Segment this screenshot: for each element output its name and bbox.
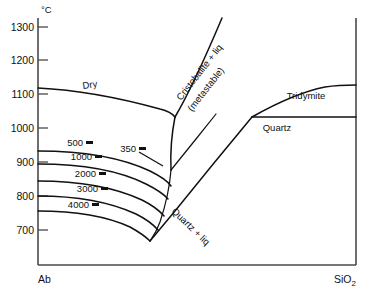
quartz-liq-label: Quartz + liq (170, 206, 213, 248)
phase-diagram-figure: 1300 1200 1100 1000 900 800 700 °C Ab Si… (0, 0, 381, 295)
dry-liquidus-curve (38, 88, 175, 117)
y-axis-tick-labels: 1300 1200 1100 1000 900 800 700 (11, 21, 35, 236)
y-tick-label-1200: 1200 (11, 54, 35, 66)
quartz-label: Quartz (263, 122, 292, 133)
x-axis-right-endmember-label: SiO2 (334, 273, 357, 288)
pressure-marker-1000 (95, 155, 102, 158)
y-tick-label-1300: 1300 (11, 21, 35, 33)
pressure-label-500: 500 (67, 137, 83, 148)
y-tick-label-1100: 1100 (11, 88, 34, 100)
pressure-label-3000: 3000 (77, 183, 98, 194)
quartz-liq-cotectic-boundary (150, 117, 252, 241)
minima-locus-curve (150, 170, 171, 241)
pressure-labels-group: 500 1000 2000 3000 4000 (67, 137, 98, 210)
pressure-label-350: 350 (120, 143, 136, 154)
pressure-label-1000: 1000 (71, 151, 92, 162)
pressure-marker-4000 (92, 203, 99, 206)
secondary-cotectic-line (171, 114, 216, 170)
y-axis-ticks (38, 27, 48, 230)
liquidus-curve-500 (38, 151, 171, 186)
pressure-label-4000: 4000 (68, 199, 89, 210)
dry-cotectic-curve (171, 117, 175, 170)
pressure-marker-350 (139, 147, 146, 150)
pressure-label-2000: 2000 (75, 168, 96, 179)
y-tick-label-1000: 1000 (11, 122, 35, 134)
pressure-marker-3000 (101, 187, 108, 190)
phase-diagram-svg: 1300 1200 1100 1000 900 800 700 °C Ab Si… (0, 0, 381, 295)
x-axis-left-endmember-label: Ab (38, 273, 51, 285)
pressure-marker-500 (86, 141, 93, 144)
pressure-350-leader-line (139, 152, 163, 166)
pressure-marker-2000 (99, 172, 106, 175)
sio2-subscript: 2 (352, 279, 357, 288)
sio2-base: SiO (334, 273, 352, 285)
liquidus-curve-4000 (38, 211, 150, 241)
tridymite-label: Tridymite (287, 90, 326, 101)
y-tick-label-800: 800 (16, 190, 34, 202)
y-axis-unit-label: °C (41, 4, 52, 15)
y-tick-label-700: 700 (16, 224, 34, 236)
y-tick-label-900: 900 (16, 156, 34, 168)
liquidus-curve-3000 (38, 196, 158, 230)
dry-curve-label: Dry (82, 78, 98, 91)
